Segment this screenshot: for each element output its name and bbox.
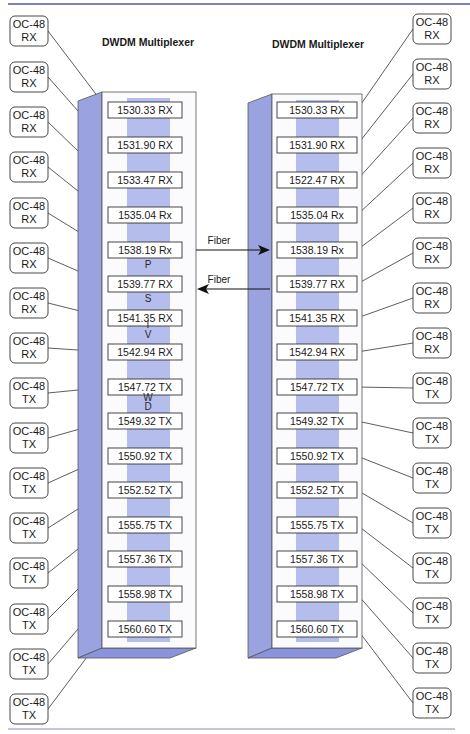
right-connector-line [357,594,413,658]
right-oc48-terminal: OC-48TX [413,643,451,673]
right-connector-line [357,387,413,388]
terminal-line2: TX [22,483,37,495]
channel-label: 1539.77 RX [289,278,344,290]
left-mux-title: DWDM Multiplexer [102,36,194,48]
right-connector-line [357,29,413,110]
right-oc48-terminal: OC-48TX [413,463,451,493]
right-oc48-terminal: OC-48TX [413,688,451,718]
right-connector-line [357,253,413,284]
left-channel-box: 1558.98 TX [108,586,182,602]
right-connector-line [357,74,413,145]
terminal-line1: OC-48 [416,510,448,522]
terminals: OC-48RXOC-48RXOC-48RXOC-48RXOC-48RXOC-48… [10,14,451,724]
left-channel-box: 1552.52 TX [108,482,182,498]
right-channel-box: 1541.35 RX [277,310,357,326]
channel-label: 1522.47 RX [289,174,344,186]
terminal-line1: OC-48 [13,109,45,121]
right-connector-line [357,421,413,433]
terminal-line2: TX [425,388,440,400]
terminal-line1: OC-48 [13,515,45,527]
channel-label: 1541.35 RX [117,312,172,324]
channel-label: 1557.36 TX [118,553,172,565]
terminal-line1: OC-48 [13,425,45,437]
left-channel-box: 1533.47 RX [108,172,182,188]
terminal-line1: OC-48 [13,64,45,76]
left-channel-box: 1530.33 RX [108,102,182,118]
terminal-line1: OC-48 [416,150,448,162]
right-channel-box: 1552.52 TX [277,482,357,498]
channel-label: 1535.04 Rx [290,209,344,221]
right-mux-title: DWDM Multiplexer [272,38,364,50]
right-oc48-terminal: OC-48TX [413,418,451,448]
right-mux-side-panel [248,94,272,658]
channel-label: 1555.75 TX [118,519,172,531]
left-channel-box: 1549.32 TX [108,413,182,429]
right-connector-line [357,559,413,613]
left-oc48-terminal: OC-48RX [10,198,48,228]
left-oc48-terminal: OC-48RX [10,333,48,363]
terminal-line1: OC-48 [416,330,448,342]
right-oc48-terminal: OC-48RX [413,193,451,223]
left-oc48-terminal: OC-48RX [10,243,48,273]
terminal-line1: OC-48 [416,240,448,252]
left-oc48-terminal: OC-48TX [10,694,48,724]
terminal-line1: OC-48 [416,555,448,567]
terminal-line2: RX [21,348,37,360]
right-channel-box: 1522.47 RX [277,172,357,188]
terminal-line2: TX [22,438,37,450]
terminal-line2: RX [424,163,440,175]
terminal-line2: RX [21,122,37,134]
left-channel-box: 1560.60 TX [108,621,182,637]
left-oc48-terminal: OC-48RX [10,152,48,182]
terminal-line2: RX [21,258,37,270]
right-oc48-terminal: OC-48RX [413,238,451,268]
channel-label: 1558.98 TX [290,588,344,600]
terminal-line2: RX [21,167,37,179]
terminal-line2: TX [425,703,440,715]
terminal-line2: TX [22,393,37,405]
fiber-label: Fiber [208,274,231,285]
channel-label: 1531.90 RX [117,139,172,151]
channel-label: 1549.32 TX [290,415,344,427]
right-oc48-terminal: OC-48RX [413,103,451,133]
vertical-letter: V [145,329,152,340]
fiber-label: Fiber [208,235,231,246]
left-oc48-terminal: OC-48TX [10,649,48,679]
right-channel-box: 1555.75 TX [277,517,357,533]
right-oc48-terminal: OC-48TX [413,373,451,403]
terminal-line2: RX [424,208,440,220]
channel-label: 1531.90 RX [289,139,344,151]
terminal-line2: RX [424,29,440,41]
terminal-line1: OC-48 [13,470,45,482]
right-channel-box: 1549.32 TX [277,413,357,429]
terminal-line2: TX [22,619,37,631]
left-channel-box: 1541.35 RX [108,310,182,326]
right-channel-box: 1531.90 RX [277,137,357,153]
right-channel-box: 1542.94 RX [277,344,357,360]
channel-label: 1552.52 TX [118,484,172,496]
terminal-line1: OC-48 [416,690,448,702]
right-channel-box: 1535.04 Rx [277,207,357,223]
terminal-line1: OC-48 [13,560,45,572]
right-connector-line [357,629,413,703]
terminal-line2: TX [22,709,37,721]
dwdm-diagram: DWDM Multiplexer1530.33 RX1531.90 RX1533… [0,0,470,734]
terminal-line2: TX [425,478,440,490]
left-mux-side-panel [78,92,102,658]
right-connector-line [357,208,413,250]
terminal-line2: RX [424,74,440,86]
channel-label: 1530.33 RX [289,104,344,116]
left-channel-box: 1538.19 Rx [108,242,182,258]
channel-label: 1539.77 RX [117,278,172,290]
left-oc48-terminal: OC-48RX [10,107,48,137]
left-oc48-terminal: OC-48RX [10,16,48,46]
left-oc48-terminal: OC-48TX [10,423,48,453]
terminal-line2: RX [21,77,37,89]
right-channel-box: 1550.92 TX [277,448,357,464]
terminal-line1: OC-48 [416,16,448,28]
terminal-line1: OC-48 [13,18,45,30]
channel-label: 1550.92 TX [118,450,172,462]
channel-label: 1547.72 TX [290,381,344,393]
left-channel-box: 1539.77 RX [108,276,182,292]
left-oc48-terminal: OC-48TX [10,513,48,543]
